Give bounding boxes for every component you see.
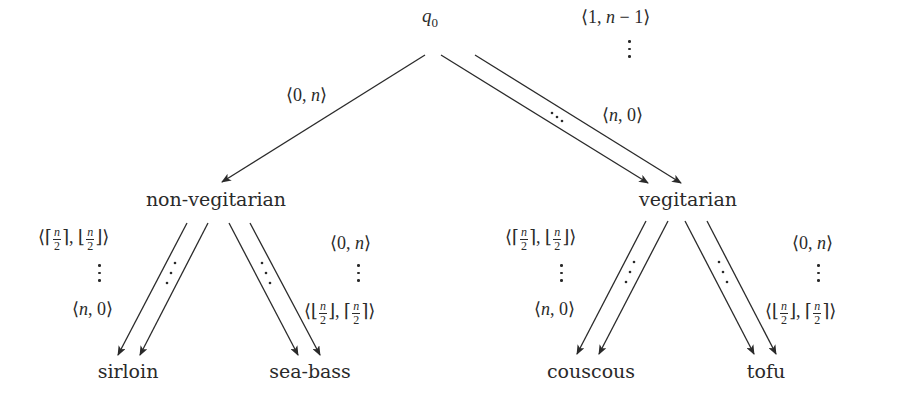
langle: ⟨ <box>38 227 45 247</box>
label-veg-couscous-top: ⟨⌈n2⌉, ⌊n2⌋⟩ <box>505 226 576 252</box>
node-vegitarian: vegitarian <box>639 190 737 209</box>
rangle: ⟩ <box>636 105 643 125</box>
langle: ⟨ <box>286 85 293 105</box>
var-n: n <box>817 233 826 253</box>
num: 0 <box>337 233 346 253</box>
edge-layer <box>0 0 908 406</box>
var-n: n <box>311 85 320 105</box>
frac-num: n <box>53 226 61 240</box>
edge-veg-tofu-b <box>707 221 776 354</box>
lceil: ⌈ <box>805 301 812 321</box>
comma: , <box>69 227 74 247</box>
lceil: ⌈ <box>512 227 519 247</box>
var-n: n <box>609 105 618 125</box>
vdots-q0-veg <box>628 40 632 63</box>
comma: , <box>618 105 623 125</box>
frac-den: 2 <box>86 240 94 253</box>
lceil: ⌈ <box>45 227 52 247</box>
rangle: ⟩ <box>829 301 836 321</box>
comma: , <box>536 227 541 247</box>
rangle: ⟩ <box>826 233 833 253</box>
node-tofu: tofu <box>747 362 785 381</box>
minus-one: − 1 <box>620 7 644 27</box>
fraction: n2 <box>813 300 821 326</box>
label-nonveg-seabass-top: ⟨0, n⟩ <box>330 234 371 252</box>
num: 0 <box>97 299 106 319</box>
rangle: ⟩ <box>368 301 375 321</box>
rangle: ⟩ <box>568 299 575 319</box>
lfloor: ⌊ <box>772 301 779 321</box>
frac-den: 2 <box>553 240 561 253</box>
label-veg-tofu-bottom: ⟨⌊n2⌋, ⌈n2⌉⟩ <box>765 300 836 326</box>
node-couscous: couscous <box>547 362 635 381</box>
label-veg-couscous-bottom: ⟨n, 0⟩ <box>534 300 575 318</box>
frac-num: n <box>553 226 561 240</box>
comma: , <box>597 7 602 27</box>
frac-den: 2 <box>352 314 360 327</box>
node-non-vegitarian: non-vegitarian <box>146 190 286 209</box>
rangle: ⟩ <box>364 233 371 253</box>
node-sea-bass: sea-bass <box>269 362 351 381</box>
frac-den: 2 <box>813 314 821 327</box>
langle: ⟨ <box>505 227 512 247</box>
num: 0 <box>559 299 568 319</box>
num: 0 <box>799 233 808 253</box>
lceil: ⌈ <box>344 301 351 321</box>
fraction: n2 <box>53 226 61 252</box>
comma: , <box>335 301 340 321</box>
frac-num: n <box>780 300 788 314</box>
label-veg-tofu-top: ⟨0, n⟩ <box>792 234 833 252</box>
frac-den: 2 <box>53 240 61 253</box>
comma: , <box>808 233 813 253</box>
lfloor: ⌊ <box>311 301 318 321</box>
lfloor: ⌊ <box>545 227 552 247</box>
var-n: n <box>79 299 88 319</box>
edge-nonveg-seabass-a <box>229 223 298 355</box>
var-n: n <box>355 233 364 253</box>
rangle: ⟩ <box>569 227 576 247</box>
var-n: n <box>541 299 550 319</box>
edge-nonveg-sirloin-b <box>140 223 208 355</box>
q0-subscript: 0 <box>432 15 439 30</box>
edge-veg-couscous-a <box>577 221 646 354</box>
langle: ⟨ <box>72 299 79 319</box>
frac-num: n <box>352 300 360 314</box>
edge-nonveg-sirloin-a <box>118 223 187 355</box>
edge-q0-veg-b <box>475 55 681 183</box>
var-n: n <box>606 7 615 27</box>
label-nonveg-sirloin-top: ⟨⌈n2⌉, ⌊n2⌋⟩ <box>38 226 109 252</box>
frac-num: n <box>86 226 94 240</box>
fraction: n2 <box>780 300 788 326</box>
fraction: n2 <box>86 226 94 252</box>
edge-q0-nonveg <box>222 55 425 182</box>
node-q0: q0 <box>422 6 438 29</box>
comma: , <box>302 85 307 105</box>
comma: , <box>346 233 351 253</box>
fraction: n2 <box>520 226 528 252</box>
edge-nonveg-seabass-b <box>250 223 320 355</box>
rangle: ⟩ <box>320 85 327 105</box>
edge-veg-couscous-b <box>599 221 668 354</box>
frac-num: n <box>319 300 327 314</box>
vdots-veg-tofu <box>817 264 821 287</box>
frac-den: 2 <box>520 240 528 253</box>
fraction: n2 <box>352 300 360 326</box>
fraction: n2 <box>553 226 561 252</box>
frac-den: 2 <box>780 314 788 327</box>
langle: ⟨ <box>765 301 772 321</box>
vdots-nonveg-sirloin <box>98 264 102 287</box>
num: 1 <box>588 7 597 27</box>
num: 0 <box>627 105 636 125</box>
node-sirloin: sirloin <box>98 362 159 381</box>
label-q0-veg-bottom: ⟨n, 0⟩ <box>602 106 643 124</box>
fraction: n2 <box>319 300 327 326</box>
frac-den: 2 <box>319 314 327 327</box>
langle: ⟨ <box>581 7 588 27</box>
comma: , <box>796 301 801 321</box>
frac-num: n <box>813 300 821 314</box>
comma: , <box>88 299 93 319</box>
q0-base: q <box>422 5 432 26</box>
rangle: ⟩ <box>643 7 650 27</box>
label-q0-veg-top: ⟨1, n − 1⟩ <box>581 8 650 26</box>
vdots-veg-couscous <box>560 264 564 287</box>
